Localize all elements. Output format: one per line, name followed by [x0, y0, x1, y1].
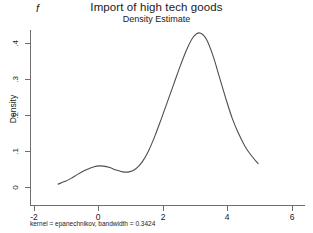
y-axis-tick-label: .1	[11, 144, 20, 160]
y-axis-tick-label: .3	[11, 72, 20, 88]
y-axis-line	[30, 30, 31, 206]
x-axis-tick-mark	[98, 206, 99, 211]
chart-note: kernel = epanechnikov, bandwidth = 0.342…	[30, 220, 155, 228]
x-axis-tick-label: 6	[282, 212, 302, 222]
x-axis-tick-mark	[163, 206, 164, 211]
density-plot-figure: f Import of high tech goods Density Esti…	[0, 0, 313, 233]
chart-subtitle: Density Estimate	[0, 14, 313, 25]
y-axis-tick-mark	[25, 187, 30, 188]
density-curve-path	[58, 33, 258, 184]
density-curve-canvas	[0, 0, 313, 233]
y-axis-tick-label: 0	[11, 180, 20, 196]
y-axis-tick-mark	[25, 43, 30, 44]
x-axis-tick-label: 4	[217, 212, 237, 222]
chart-title: Import of high tech goods	[0, 1, 313, 14]
y-axis-tick-label: .4	[11, 36, 20, 52]
y-axis-tick-mark	[25, 151, 30, 152]
y-axis-tick-mark	[25, 79, 30, 80]
x-axis-tick-mark	[227, 206, 228, 211]
x-axis-tick-mark	[34, 206, 35, 211]
y-axis-tick-mark	[25, 115, 30, 116]
x-axis-line	[30, 205, 305, 206]
x-axis-tick-label: 2	[153, 212, 173, 222]
y-axis-tick-label: .2	[11, 108, 20, 124]
x-axis-tick-mark	[292, 206, 293, 211]
